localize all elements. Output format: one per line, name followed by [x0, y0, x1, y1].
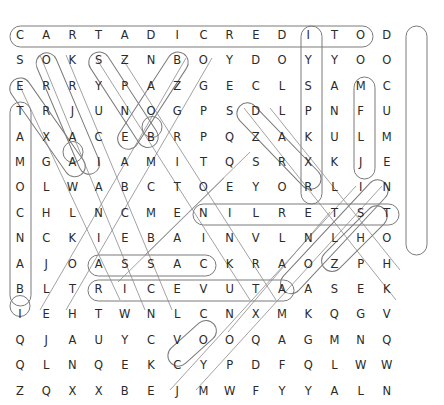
grid-cell[interactable]: E — [114, 354, 136, 376]
grid-cell[interactable]: Q — [323, 303, 345, 325]
grid-cell[interactable]: R — [88, 278, 110, 300]
grid-cell[interactable]: E — [35, 303, 57, 325]
grid-cell[interactable]: S — [350, 202, 372, 224]
grid-cell[interactable]: D — [140, 24, 162, 46]
grid-cell[interactable]: Z — [114, 49, 136, 71]
grid-cell[interactable]: I — [88, 151, 110, 173]
grid-cell[interactable]: C — [245, 75, 267, 97]
grid-cell[interactable]: S — [9, 49, 31, 71]
grid-cell[interactable]: P — [350, 253, 372, 275]
grid-cell[interactable]: E — [350, 278, 372, 300]
grid-cell[interactable]: L — [166, 303, 188, 325]
grid-cell[interactable]: G — [166, 100, 188, 122]
grid-cell[interactable]: Z — [323, 253, 345, 275]
grid-cell[interactable]: R — [61, 24, 83, 46]
grid-cell[interactable]: Z — [9, 380, 31, 402]
grid-cell[interactable]: T — [88, 24, 110, 46]
grid-cell[interactable]: T — [376, 202, 398, 224]
grid-cell[interactable]: C — [140, 278, 162, 300]
grid-cell[interactable]: W — [376, 354, 398, 376]
grid-cell[interactable]: M — [9, 151, 31, 173]
grid-cell[interactable]: P — [219, 354, 241, 376]
grid-cell[interactable]: Y — [88, 75, 110, 97]
grid-cell[interactable]: Y — [271, 380, 293, 402]
grid-cell[interactable]: L — [271, 100, 293, 122]
grid-cell[interactable]: P — [192, 126, 214, 148]
grid-cell[interactable]: U — [88, 100, 110, 122]
grid-cell[interactable]: E — [297, 202, 319, 224]
grid-cell[interactable]: L — [35, 354, 57, 376]
grid-cell[interactable]: M — [376, 126, 398, 148]
grid-cell[interactable]: E — [114, 126, 136, 148]
grid-cell[interactable]: U — [88, 329, 110, 351]
grid-cell[interactable]: T — [166, 176, 188, 198]
grid-cell[interactable]: N — [88, 202, 110, 224]
grid-cell[interactable]: C — [9, 24, 31, 46]
grid-cell[interactable]: A — [323, 75, 345, 97]
grid-cell[interactable]: O — [140, 100, 162, 122]
grid-cell[interactable]: O — [376, 49, 398, 71]
grid-cell[interactable]: P — [192, 100, 214, 122]
grid-cell[interactable]: X — [297, 151, 319, 173]
grid-cell[interactable]: X — [35, 126, 57, 148]
grid-cell[interactable]: A — [88, 176, 110, 198]
grid-cell[interactable]: A — [271, 253, 293, 275]
grid-cell[interactable]: E — [140, 380, 162, 402]
grid-cell[interactable]: W — [350, 354, 372, 376]
grid-cell[interactable]: E — [219, 176, 241, 198]
grid-cell[interactable]: Y — [323, 49, 345, 71]
grid-cell[interactable]: L — [35, 176, 57, 198]
grid-cell[interactable]: R — [35, 100, 57, 122]
grid-cell[interactable]: L — [271, 75, 293, 97]
grid-cell[interactable]: C — [192, 253, 214, 275]
grid-cell[interactable]: R — [297, 176, 319, 198]
grid-cell[interactable]: D — [271, 24, 293, 46]
grid-cell[interactable]: D — [376, 24, 398, 46]
grid-cell[interactable]: A — [271, 126, 293, 148]
grid-cell[interactable]: O — [61, 253, 83, 275]
grid-cell[interactable]: L — [350, 126, 372, 148]
grid-cell[interactable]: B — [140, 227, 162, 249]
grid-cell[interactable]: L — [245, 202, 267, 224]
grid-cell[interactable]: Q — [376, 329, 398, 351]
grid-cell[interactable]: S — [88, 49, 110, 71]
grid-cell[interactable]: Y — [245, 176, 267, 198]
grid-cell[interactable]: H — [61, 303, 83, 325]
grid-cell[interactable]: C — [192, 303, 214, 325]
grid-cell[interactable]: L — [323, 354, 345, 376]
grid-cell[interactable]: T — [323, 202, 345, 224]
grid-cell[interactable]: T — [61, 278, 83, 300]
grid-cell[interactable]: I — [166, 151, 188, 173]
grid-cell[interactable]: L — [271, 227, 293, 249]
grid-cell[interactable]: J — [35, 329, 57, 351]
grid-cell[interactable]: O — [271, 49, 293, 71]
grid-cell[interactable]: W — [61, 176, 83, 198]
grid-cell[interactable]: M — [192, 380, 214, 402]
grid-cell[interactable]: O — [297, 253, 319, 275]
grid-cell[interactable]: J — [61, 100, 83, 122]
grid-cell[interactable]: H — [35, 202, 57, 224]
grid-cell[interactable]: E — [219, 75, 241, 97]
grid-cell[interactable]: S — [297, 75, 319, 97]
grid-cell[interactable]: A — [166, 253, 188, 275]
grid-cell[interactable]: K — [219, 253, 241, 275]
grid-cell[interactable]: M — [350, 75, 372, 97]
grid-cell[interactable]: I — [192, 227, 214, 249]
grid-cell[interactable]: D — [245, 100, 267, 122]
grid-cell[interactable]: N — [350, 329, 372, 351]
grid-cell[interactable]: J — [35, 253, 57, 275]
grid-cell[interactable]: T — [192, 151, 214, 173]
grid-cell[interactable]: R — [61, 75, 83, 97]
grid-cell[interactable]: X — [88, 380, 110, 402]
grid-cell[interactable]: R — [271, 202, 293, 224]
grid-cell[interactable]: Q — [9, 354, 31, 376]
grid-cell[interactable]: A — [35, 24, 57, 46]
grid-cell[interactable]: O — [35, 49, 57, 71]
grid-cell[interactable]: K — [61, 49, 83, 71]
grid-cell[interactable]: C — [88, 126, 110, 148]
grid-cell[interactable]: Q — [88, 354, 110, 376]
grid-cell[interactable]: U — [376, 100, 398, 122]
grid-cell[interactable]: A — [271, 329, 293, 351]
grid-cell[interactable]: K — [61, 227, 83, 249]
grid-cell[interactable]: E — [166, 278, 188, 300]
